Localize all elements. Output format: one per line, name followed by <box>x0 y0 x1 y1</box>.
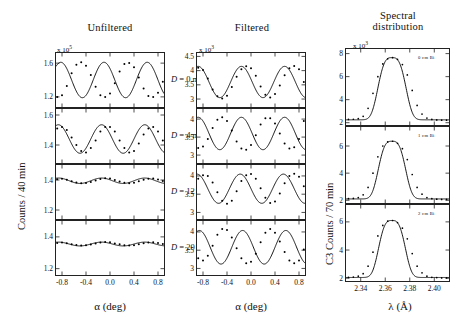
panel-spectral-1cmBi-plot <box>346 127 449 203</box>
panel-filtered-D20-ytick-label: 3 <box>172 264 194 273</box>
panel-unfiltered-D12-datapoints <box>56 177 164 184</box>
panel-unfiltered-D20-ticks <box>56 221 164 275</box>
panel-spectral-2cmBi-ytick-label: 2 <box>321 274 343 283</box>
panel-unfiltered-D4-datapoints <box>56 126 164 154</box>
panel-filtered-D12 <box>196 164 306 220</box>
panel-unfiltered-D12 <box>55 164 165 220</box>
xtick-label-col0: 0.8 <box>143 278 173 287</box>
column-title-unfiltered: Unfiltered <box>60 22 160 33</box>
panel-filtered-D20 <box>196 220 306 276</box>
column-title-spectral-line1: Spectral <box>343 10 453 21</box>
panel-filtered-D0-ytick-label: 3 <box>172 95 194 104</box>
panel-filtered-D4 <box>196 108 306 164</box>
panel-spectral-2cmBi-plot <box>346 205 449 281</box>
xlabel-lambda-spectral: λ (Å) <box>345 300 455 312</box>
panel-filtered-D12-plot <box>197 165 305 219</box>
panel-unfiltered-D20-plot <box>56 221 164 275</box>
exponent-spectral-power: 3 <box>365 40 368 46</box>
xlabel-alpha-unfiltered: α (deg) <box>55 300 165 312</box>
panel-unfiltered-D4-ticks <box>56 109 164 163</box>
panel-filtered-D0-curve <box>197 66 305 97</box>
panel-spectral-1cmBi-ytick-label: 6 <box>321 142 343 151</box>
panel-filtered-D0-ytick-label: 3.5 <box>172 80 194 89</box>
panel-spectral-0cmBi-ticks <box>346 49 449 125</box>
panel-spectral-2cmBi-ytick-label: 4 <box>321 246 343 255</box>
panel-filtered-D0-ytick-label: 4.5 <box>172 52 194 61</box>
panel-filtered-D4-plot <box>197 109 305 163</box>
panel-unfiltered-D0-curve <box>56 62 164 97</box>
panel-unfiltered-D12-ytick-label: 1.4 <box>31 176 53 185</box>
panel-filtered-D12-ytick-label: 3 <box>172 208 194 217</box>
panel-filtered-D20-ticks <box>197 221 305 275</box>
panel-filtered-D20-plot <box>197 221 305 275</box>
column-title-unfiltered-text: Unfiltered <box>87 22 132 33</box>
panel-spectral-1cmBi-datapoints <box>348 140 448 200</box>
panel-spectral-2cmBi-ticks <box>346 205 449 281</box>
panel-filtered-D0-ytick-label: 4 <box>172 66 194 75</box>
panel-unfiltered-D20 <box>55 220 165 276</box>
panel-filtered-D0-plot <box>197 53 305 107</box>
panel-spectral-0cmBi-curve <box>346 58 449 120</box>
panel-unfiltered-D20-ytick-label: 1.4 <box>31 232 53 241</box>
panel-spectral-1cmBi-curve <box>346 141 449 199</box>
panel-filtered-D4-ytick-label: 4 <box>172 115 194 124</box>
panel-unfiltered-D4-ytick-label: 1.4 <box>31 141 53 150</box>
panel-spectral-0cmBi-ytick-label: 4 <box>321 95 343 104</box>
panel-filtered-D12-ytick-label: 4 <box>172 171 194 180</box>
ylabel-counts-40min: Counts / 40 min <box>16 163 27 230</box>
column-title-filtered: Filtered <box>202 22 302 33</box>
panel-unfiltered-D0-plot <box>56 53 164 107</box>
panel-filtered-D0-datapoints <box>197 65 305 99</box>
figure-root: Unfiltered Filtered Spectral distributio… <box>0 0 466 327</box>
panel-filtered-D4-datapoints <box>197 116 305 150</box>
panel-filtered-D20-ytick-label: 3.5 <box>172 246 194 255</box>
panel-spectral-0cmBi-ytick-label: 2 <box>321 118 343 127</box>
panel-spectral-1cmBi-ytick-label: 2 <box>321 196 343 205</box>
panel-inner-label-0: 0 cm Bi <box>418 55 435 60</box>
exponent-filtered-power: 3 <box>211 44 214 50</box>
panel-filtered-D12-ytick-label: 3.5 <box>172 190 194 199</box>
panel-unfiltered-D20-ytick-label: 1.2 <box>31 264 53 273</box>
panel-spectral-0cmBi-datapoints <box>348 57 448 121</box>
panel-filtered-D4-ticks <box>197 109 305 163</box>
panel-spectral-0cmBi-ytick-label: 8 <box>321 49 343 58</box>
xtick-label-col2: 2.40 <box>419 284 449 293</box>
panel-filtered-D4-ytick-label: 3.5 <box>172 133 194 142</box>
panel-unfiltered-D4 <box>55 108 165 164</box>
panel-filtered-D20-ytick-label: 4 <box>172 227 194 236</box>
panel-spectral-2cmBi-ytick-label: 6 <box>321 217 343 226</box>
panel-filtered-D0 <box>196 52 306 108</box>
panel-unfiltered-D4-ytick-label: 1.6 <box>31 111 53 120</box>
column-title-spectral: Spectral distribution <box>343 10 453 32</box>
column-title-spectral-line2: distribution <box>343 21 453 32</box>
panel-filtered-D20-datapoints <box>197 228 305 264</box>
panel-filtered-D12-curve <box>197 174 305 203</box>
panel-unfiltered-D0-datapoints <box>56 61 164 98</box>
panel-spectral-2cmBi-datapoints <box>348 220 448 279</box>
exponent-unfiltered-power: 5 <box>69 44 72 50</box>
panel-unfiltered-D0-ticks <box>56 53 164 107</box>
column-title-filtered-text: Filtered <box>235 22 269 33</box>
xtick-label-col1: 0.8 <box>284 278 314 287</box>
panel-unfiltered-D12-ticks <box>56 165 164 219</box>
panel-spectral-0cmBi-plot <box>346 49 449 125</box>
panel-inner-label-2: 2 cm Bi <box>418 211 435 216</box>
panel-unfiltered-D0-ytick-label: 1.2 <box>31 92 53 101</box>
panel-filtered-D20-curve <box>197 230 305 264</box>
panel-unfiltered-D0 <box>55 52 165 108</box>
panel-spectral-1cmBi-ticks <box>346 127 449 203</box>
panel-unfiltered-D12-plot <box>56 165 164 219</box>
panel-inner-label-1: 1 cm Bi <box>418 133 435 138</box>
panel-unfiltered-D12-ytick-label: 1.2 <box>31 206 53 215</box>
panel-unfiltered-D0-ytick-label: 1.6 <box>31 59 53 68</box>
panel-spectral-1cmBi-ytick-label: 4 <box>321 169 343 178</box>
xlabel-alpha-filtered: α (deg) <box>196 300 306 312</box>
panel-filtered-D12-ticks <box>197 165 305 219</box>
panel-spectral-2cmBi-curve <box>346 220 449 277</box>
panel-filtered-D4-ytick-label: 3 <box>172 151 194 160</box>
panel-unfiltered-D4-plot <box>56 109 164 163</box>
panel-spectral-0cmBi-ytick-label: 6 <box>321 72 343 81</box>
